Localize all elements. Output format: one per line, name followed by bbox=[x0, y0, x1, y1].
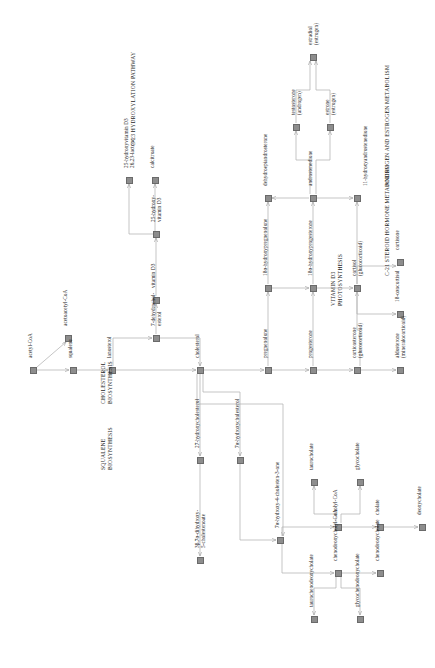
node-label-18a-hydroxypregnenolone: 18α-hydroxypregnenolone bbox=[262, 219, 268, 276]
node-label-25-hydroxy-vitamin-d3: 25-hydroxy-vitamin D3 bbox=[150, 195, 162, 222]
section-title-squalene: SQUALENEBIOSYNTHESIS bbox=[100, 427, 115, 470]
node-label-glycochenodeoxycholate: glycochenodeoxycholate bbox=[354, 553, 360, 607]
pathway-node-androstenedione[interactable] bbox=[310, 195, 317, 202]
pathway-node-18a-hydroxyprogesterone[interactable] bbox=[310, 285, 317, 292]
section-title-cholesterol: CHOLESTEROLBIOSYNTHESIS bbox=[100, 361, 115, 404]
pathway-node-cortisone[interactable] bbox=[397, 259, 404, 266]
node-label-progesterone: progesterone bbox=[307, 330, 313, 358]
node-label-cortisol: cortisol(glucocorticoid) bbox=[351, 241, 363, 276]
pathway-node-glycocholate[interactable] bbox=[357, 479, 364, 486]
node-label-squalene: squalene bbox=[67, 339, 73, 358]
pathway-node-25-hydroxy-vitamin-d3[interactable] bbox=[153, 231, 160, 238]
node-label-cortisone: cortisone bbox=[394, 230, 400, 250]
node-label-18-oxocortisol: 18-oxocortisol bbox=[394, 270, 400, 302]
pathway-node-7a-hydroxy-4-cholesten-3-one[interactable] bbox=[277, 537, 284, 544]
node-label-acetoacetyl-coa: acetoacetyl-CoA bbox=[62, 290, 68, 326]
pathway-node-aldosterone[interactable] bbox=[397, 367, 404, 374]
pathway-node-25-hydroxyvitamin-d3-26-23-lactone[interactable] bbox=[126, 177, 133, 184]
pathway-node-taurochenodeoxycholate[interactable] bbox=[311, 616, 318, 623]
pathway-node-18a-hydroxypregnenolone[interactable] bbox=[265, 285, 272, 292]
pathway-node-estrone[interactable] bbox=[327, 124, 334, 131]
node-label-chenodeoxycholyl-coa: chenodeoxycholyl-CoA bbox=[332, 509, 338, 561]
node-label-lanosterol: lanosterol bbox=[106, 337, 112, 358]
node-label-vitamin-d3: vitamin D3 bbox=[150, 264, 156, 289]
pathway-node-cholesterol[interactable] bbox=[197, 367, 204, 374]
node-label-testosterone: testosterone(androgen) bbox=[290, 89, 302, 115]
node-label-aldosterone: aldosterone(mineralocorticoid) bbox=[394, 316, 406, 358]
pathway-diagram-canvas: acetyl-CoAacetoacetyl-CoAsqualenelanoste… bbox=[0, 0, 435, 668]
section-title-androgen: ANDROGEN AND ESTROGEN METABOLISM bbox=[384, 65, 391, 186]
section-title-c23: C-23 HYDROXYLATION PATHWAY bbox=[130, 52, 137, 146]
node-label-taurochenodeoxycholate: taurochenodeoxycholate bbox=[308, 554, 314, 607]
node-label-18a-hydroxyprogesterone: 18α-hydroxyprogesterone bbox=[307, 220, 313, 276]
pathway-node-3b-7a-dihydroxy-5-cholestenoate[interactable] bbox=[197, 557, 204, 564]
pathway-node-pregnenolone[interactable] bbox=[265, 367, 272, 374]
node-label-androstenedione: androstenedione bbox=[307, 151, 313, 187]
node-label-3b-7a-dihydroxy-5-cholestenoate: 3β,7α-dihydroxy-5-cholestenoate bbox=[194, 510, 206, 548]
pathway-node-7-dehydrocholesterol[interactable] bbox=[153, 335, 160, 342]
pathway-node-acetyl-coa[interactable] bbox=[30, 367, 37, 374]
node-label-cholesterol: cholesterol bbox=[194, 334, 200, 358]
node-label-glycocholate: glycocholate bbox=[354, 442, 360, 470]
node-label-calcitroate: calcitroate bbox=[149, 145, 155, 168]
node-label-27-hydroxycholesterol: 27-hydroxycholesterol bbox=[194, 399, 200, 448]
node-label-taurocholate: taurocholate bbox=[308, 443, 314, 470]
section-title-vitd: VITAMIN D3PHOTOSYNTHESIS bbox=[330, 254, 345, 306]
node-label-chenodeoxycholate: chenodeoxycholate bbox=[374, 519, 380, 561]
node-label-deoxycholate: deoxycholate bbox=[416, 486, 422, 515]
node-label-7a-hydroxy-4-cholesten-3-one: 7α-hydroxy-4-cholesten-3-one bbox=[274, 462, 280, 528]
pathway-node-chenodeoxycholate[interactable] bbox=[377, 570, 384, 577]
node-label-estradiol: estradiol(estrogen) bbox=[307, 23, 319, 45]
node-label-corticosterone: corticosterone(glucocorticoid) bbox=[351, 323, 363, 358]
pathway-node-glycochenodeoxycholate[interactable] bbox=[357, 616, 364, 623]
node-label-7a-hydroxycholesterol: 7α-hydroxycholesterol bbox=[234, 399, 240, 448]
pathway-node-testosterone[interactable] bbox=[293, 124, 300, 131]
pathway-node-estradiol[interactable] bbox=[310, 54, 317, 61]
node-label-estrone: estrone(estrogen) bbox=[324, 93, 336, 115]
node-label-7-dehydrocholesterol: 7-dehydrochol-esterol bbox=[150, 293, 162, 326]
node-label-acetyl-coa: acetyl-CoA bbox=[27, 333, 33, 358]
pathway-node-deoxycholate[interactable] bbox=[419, 524, 426, 531]
pathway-node-7a-hydroxycholesterol[interactable] bbox=[237, 457, 244, 464]
pathway-node-11-hydroxyandrostenedione[interactable] bbox=[354, 195, 361, 202]
pathway-node-calcitroate[interactable] bbox=[152, 177, 159, 184]
pathway-node-taurocholate[interactable] bbox=[311, 479, 318, 486]
pathway-node-corticosterone[interactable] bbox=[354, 367, 361, 374]
pathway-node-cortisol[interactable] bbox=[354, 285, 361, 292]
pathway-node-squalene[interactable] bbox=[70, 367, 77, 374]
pathway-node-chenodeoxycholyl-coa[interactable] bbox=[335, 570, 342, 577]
node-label-dehydroepiandrosterone: dehydroepiandrosterone bbox=[262, 134, 268, 186]
node-label-11-hydroxyandrostenedione: 11-hydroxyandrostenedione bbox=[362, 125, 368, 186]
pathway-node-dehydroepiandrosterone[interactable] bbox=[265, 195, 272, 202]
pathway-node-progesterone[interactable] bbox=[310, 367, 317, 374]
node-label-cholate: cholate bbox=[374, 499, 380, 515]
pathway-node-27-hydroxycholesterol[interactable] bbox=[197, 457, 204, 464]
node-label-pregnenolone: pregnenolone bbox=[262, 329, 268, 358]
